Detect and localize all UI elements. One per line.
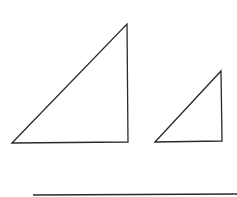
small-right-triangle [155, 71, 222, 142]
large-right-triangle [12, 24, 128, 143]
answer-line [33, 194, 237, 195]
diagram-canvas [0, 0, 237, 197]
